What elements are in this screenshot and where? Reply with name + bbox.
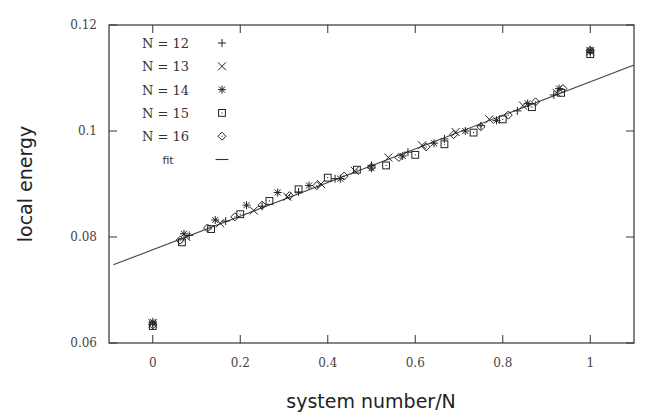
legend-item: N = 12 bbox=[142, 36, 226, 51]
series-n16 bbox=[149, 46, 595, 329]
y-axis-title: local energy bbox=[14, 126, 36, 243]
svg-text:N = 15: N = 15 bbox=[142, 106, 189, 121]
legend-item: N = 15 bbox=[142, 106, 225, 121]
y-tick-label: 0.06 bbox=[70, 336, 97, 350]
legend-item: N = 14 bbox=[142, 83, 226, 98]
data-points bbox=[149, 46, 595, 330]
y-tick-label: 0.12 bbox=[70, 18, 97, 32]
series-n12 bbox=[149, 49, 595, 329]
legend-item: fit bbox=[162, 154, 228, 167]
chart: 00.20.40.60.810.060.080.10.12 N = 12N = … bbox=[0, 0, 655, 419]
x-tick-label: 0.2 bbox=[231, 356, 250, 370]
legend-item: N = 13 bbox=[142, 59, 226, 74]
x-tick-label: 0.6 bbox=[406, 356, 425, 370]
x-tick-label: 0.8 bbox=[493, 356, 512, 370]
y-tick-label: 0.08 bbox=[70, 230, 97, 244]
x-axis-title: system number/N bbox=[286, 390, 456, 412]
x-tick-label: 0.4 bbox=[318, 356, 337, 370]
series-n14 bbox=[149, 46, 595, 326]
series-n13 bbox=[149, 48, 595, 328]
legend: N = 12N = 13N = 14N = 15N = 16fit bbox=[142, 36, 228, 167]
svg-text:N = 16: N = 16 bbox=[142, 129, 189, 144]
y-tick-label: 0.1 bbox=[78, 124, 97, 138]
svg-text:N = 14: N = 14 bbox=[142, 83, 189, 98]
svg-text:N = 13: N = 13 bbox=[142, 59, 189, 74]
legend-item: N = 16 bbox=[142, 129, 226, 144]
svg-text:fit: fit bbox=[162, 154, 174, 167]
svg-text:N = 12: N = 12 bbox=[142, 36, 189, 51]
x-tick-label: 0 bbox=[149, 356, 157, 370]
x-tick-label: 1 bbox=[586, 356, 594, 370]
series-n15 bbox=[149, 51, 593, 330]
